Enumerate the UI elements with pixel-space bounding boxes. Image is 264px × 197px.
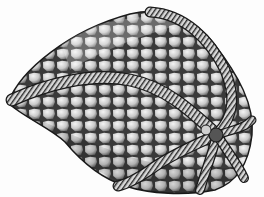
- fossil-echinoderm-drawing: [0, 0, 264, 197]
- illustration: [0, 0, 264, 197]
- theca-body: [8, 12, 264, 197]
